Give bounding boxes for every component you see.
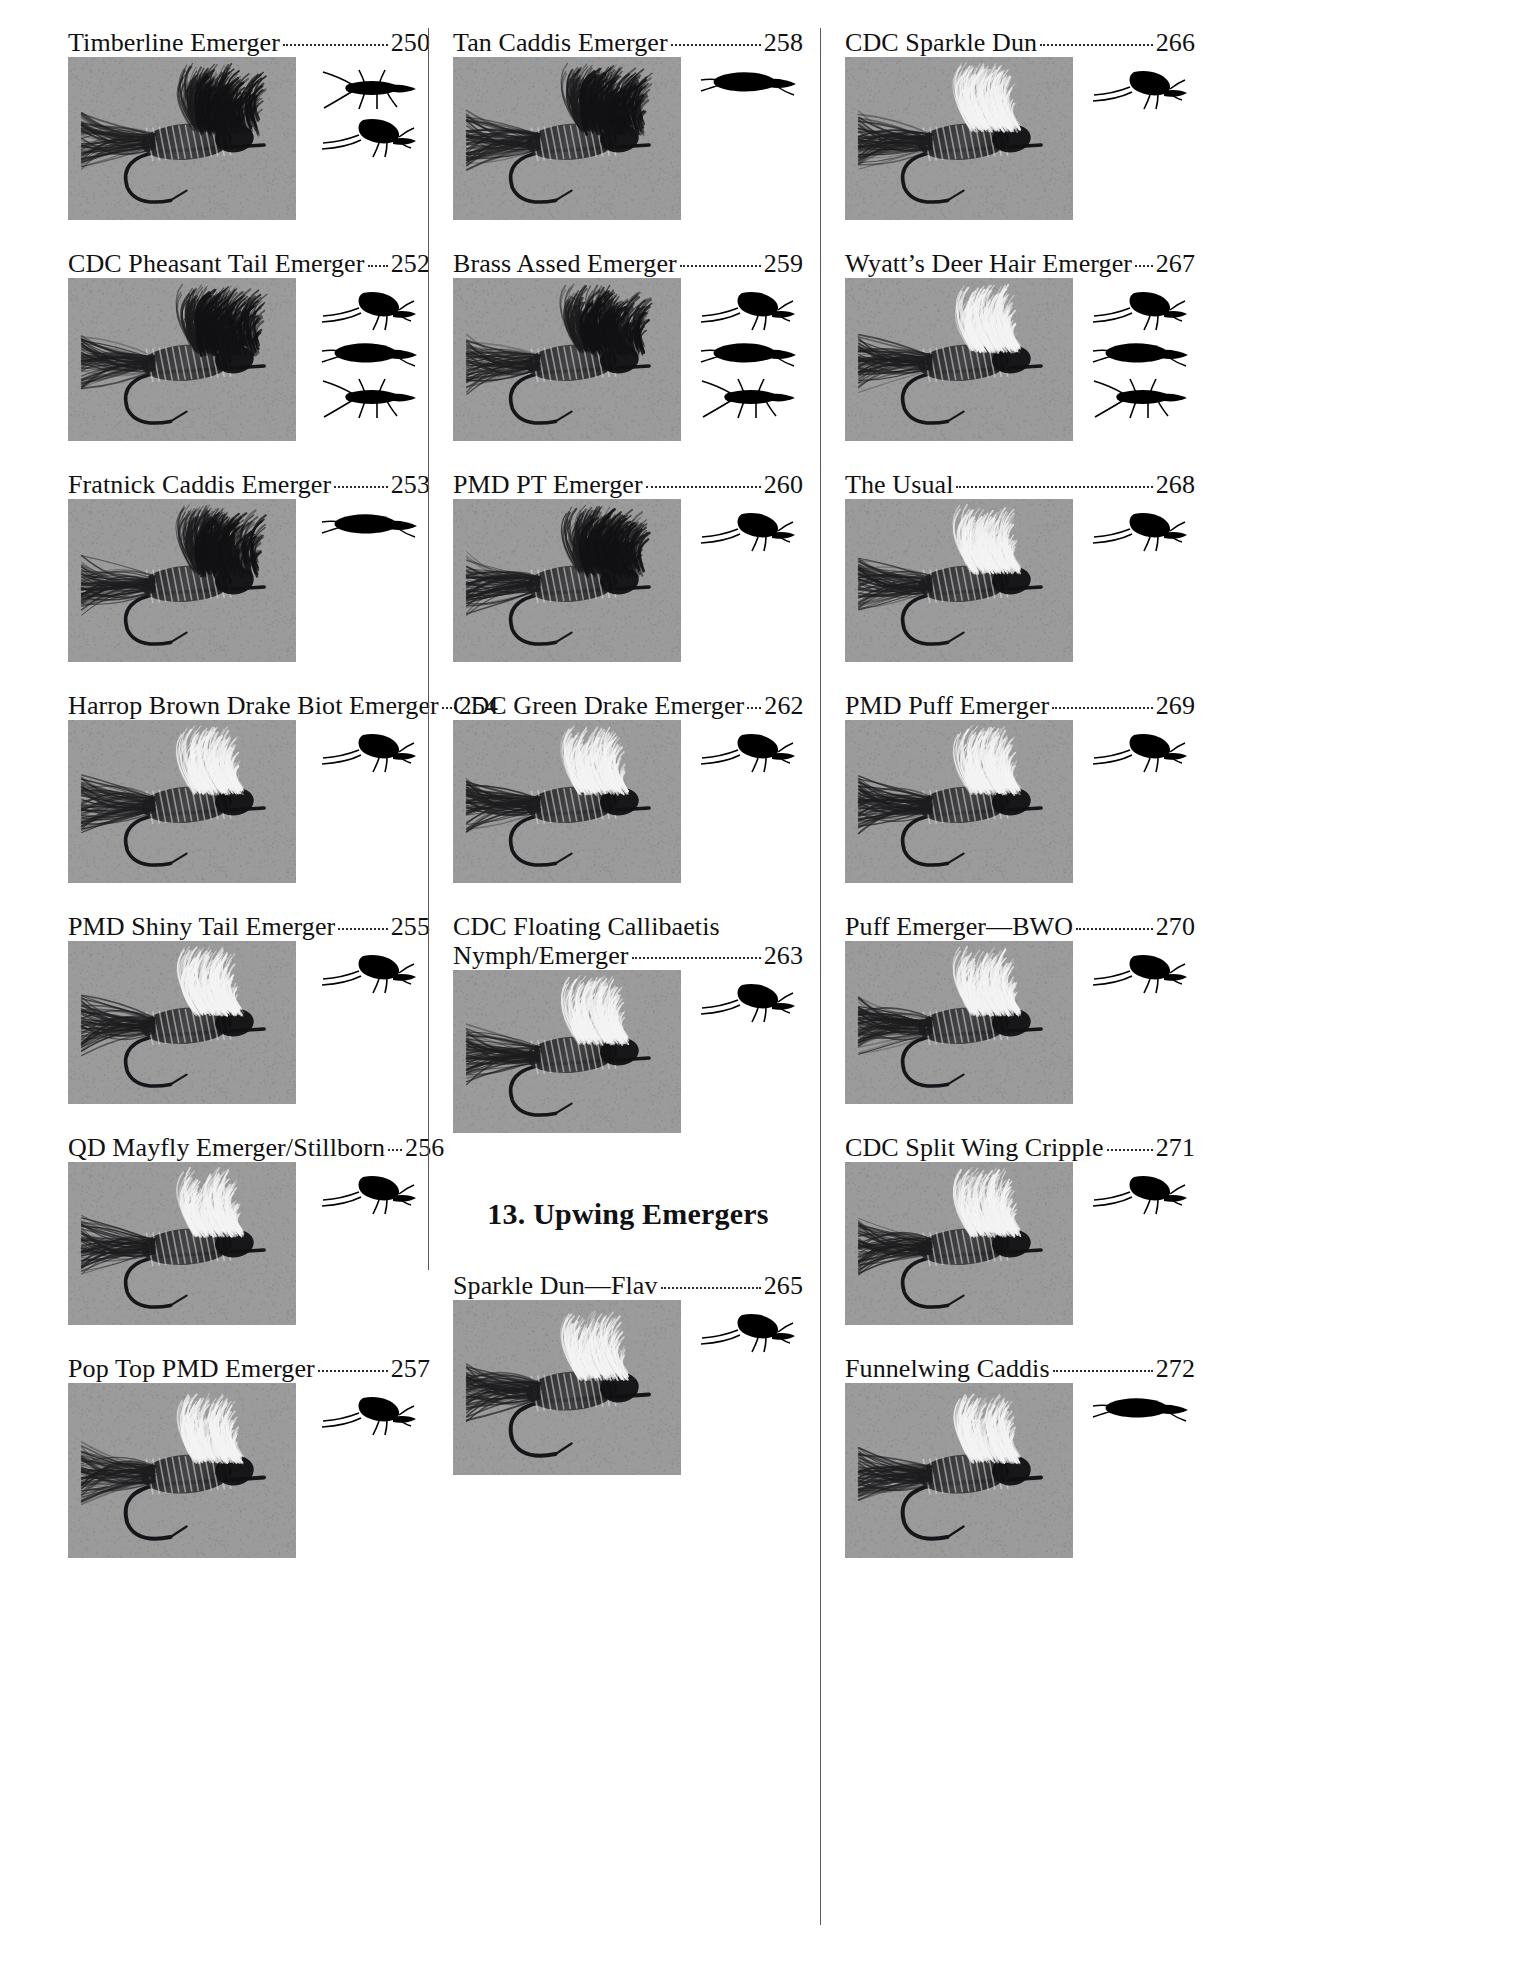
catalog-entry[interactable]: Pop Top PMD Emerger257: [68, 1354, 430, 1558]
dot-leader: [368, 265, 388, 267]
catalog-entry[interactable]: Wyatt’s Deer Hair Emerger267: [845, 249, 1195, 441]
page-number[interactable]: 266: [1156, 28, 1195, 57]
catalog-entry[interactable]: The Usual268: [845, 470, 1195, 662]
page-number[interactable]: 252: [391, 249, 430, 278]
page-number[interactable]: 256: [405, 1133, 444, 1162]
catalog-entry[interactable]: CDC Split Wing Cripple271: [845, 1133, 1195, 1325]
insect-silhouette-group: [1073, 1162, 1195, 1218]
entry-body: [453, 278, 803, 441]
mayfly-silhouette: [319, 951, 419, 997]
fly-photo[interactable]: [845, 57, 1073, 220]
page-number[interactable]: 272: [1156, 1354, 1195, 1383]
catalog-entry[interactable]: CDC Pheasant Tail Emerger252: [68, 249, 430, 441]
mayfly-silhouette: [698, 1310, 798, 1356]
entry-body: [453, 1300, 803, 1475]
catalog-page: Timberline Emerger250CDC Pheasant Tail E…: [0, 0, 1538, 1977]
page-number[interactable]: 263: [764, 941, 803, 970]
section-heading: 13. Upwing Emergers: [453, 1197, 803, 1231]
mayfly-silhouette: [698, 730, 798, 776]
mayfly-silhouette: [1090, 509, 1190, 555]
entry-body: [845, 57, 1195, 220]
entry-body: [68, 1383, 430, 1558]
fly-photo[interactable]: [845, 720, 1073, 883]
catalog-entry[interactable]: PMD Puff Emerger269: [845, 691, 1195, 883]
catalog-entry[interactable]: QD Mayfly Emerger/Stillborn256: [68, 1133, 430, 1325]
fly-photo[interactable]: [68, 1383, 296, 1558]
fly-photo[interactable]: [845, 1162, 1073, 1325]
page-number[interactable]: 269: [1156, 691, 1195, 720]
fly-photo[interactable]: [845, 1383, 1073, 1558]
page-number[interactable]: 270: [1156, 912, 1195, 941]
fly-photo[interactable]: [68, 499, 296, 662]
page-number[interactable]: 265: [764, 1271, 803, 1300]
entry-title: Funnelwing Caddis: [845, 1354, 1050, 1383]
fly-photo[interactable]: [845, 278, 1073, 441]
catalog-entry[interactable]: PMD Shiny Tail Emerger255: [68, 912, 430, 1104]
page-number[interactable]: 260: [764, 470, 803, 499]
fly-photo[interactable]: [845, 499, 1073, 662]
dot-leader: [338, 928, 387, 930]
entry-title: Harrop Brown Drake Biot Emerger: [68, 691, 439, 720]
page-number[interactable]: 262: [764, 691, 803, 720]
insect-silhouette-group: [296, 57, 430, 161]
catalog-entry[interactable]: Brass Assed Emerger259: [453, 249, 803, 441]
mayfly-silhouette: [319, 288, 419, 334]
entry-heading: Wyatt’s Deer Hair Emerger267: [845, 249, 1195, 278]
catalog-entry[interactable]: Fratnick Caddis Emerger253: [68, 470, 430, 662]
page-number[interactable]: 253: [391, 470, 430, 499]
stonefly-silhouette: [319, 67, 419, 111]
fly-photo[interactable]: [68, 720, 296, 883]
fly-photo[interactable]: [68, 57, 296, 220]
mayfly-silhouette: [1090, 730, 1190, 776]
fly-photo[interactable]: [453, 499, 681, 662]
catalog-entry[interactable]: Harrop Brown Drake Biot Emerger254: [68, 691, 430, 883]
fly-photo[interactable]: [453, 57, 681, 220]
fly-photo[interactable]: [68, 1162, 296, 1325]
catalog-entry[interactable]: Puff Emerger—BWO270: [845, 912, 1195, 1104]
page-number[interactable]: 271: [1156, 1133, 1195, 1162]
page-number[interactable]: 257: [391, 1354, 430, 1383]
entry-heading: The Usual268: [845, 470, 1195, 499]
fly-photo[interactable]: [68, 941, 296, 1104]
fly-photo[interactable]: [845, 941, 1073, 1104]
catalog-entry[interactable]: CDC Floating CallibaetisNymph/Emerger263: [453, 912, 803, 1133]
fly-photo[interactable]: [453, 278, 681, 441]
entry-heading: PMD Puff Emerger269: [845, 691, 1195, 720]
entry-title: Pop Top PMD Emerger: [68, 1354, 315, 1383]
page-number[interactable]: 258: [764, 28, 803, 57]
dot-leader: [318, 1370, 388, 1372]
entry-body: [68, 1162, 430, 1325]
fly-photo[interactable]: [68, 278, 296, 441]
page-number[interactable]: 267: [1156, 249, 1195, 278]
entry-body: [845, 1383, 1195, 1558]
catalog-entry[interactable]: CDC Green Drake Emerger262: [453, 691, 803, 883]
page-number[interactable]: 250: [391, 28, 430, 57]
entry-heading: QD Mayfly Emerger/Stillborn256: [68, 1133, 430, 1162]
catalog-entry[interactable]: Funnelwing Caddis272: [845, 1354, 1195, 1558]
page-number[interactable]: 255: [391, 912, 430, 941]
entry-title: Wyatt’s Deer Hair Emerger: [845, 249, 1132, 278]
fly-photo[interactable]: [453, 720, 681, 883]
insect-silhouette-group: [1073, 499, 1195, 555]
insect-silhouette-group: [1073, 278, 1195, 420]
entry-body: [453, 499, 803, 662]
entry-heading: Tan Caddis Emerger258: [453, 28, 803, 57]
entry-title: Sparkle Dun—Flav: [453, 1271, 658, 1300]
entry-body: [845, 278, 1195, 441]
catalog-entry[interactable]: CDC Sparkle Dun266: [845, 28, 1195, 220]
dot-leader: [956, 486, 1152, 488]
entry-body: [453, 970, 803, 1133]
catalog-entry[interactable]: Timberline Emerger250: [68, 28, 430, 220]
mayfly-silhouette: [1090, 67, 1190, 113]
page-number[interactable]: 259: [764, 249, 803, 278]
page-number[interactable]: 268: [1156, 470, 1195, 499]
insect-silhouette-group: [296, 720, 430, 776]
catalog-entry[interactable]: PMD PT Emerger260: [453, 470, 803, 662]
catalog-entry[interactable]: Tan Caddis Emerger258: [453, 28, 803, 220]
column-divider-1: [428, 28, 429, 1270]
entry-title: CDC Pheasant Tail Emerger: [68, 249, 365, 278]
fly-photo[interactable]: [453, 970, 681, 1133]
catalog-entry[interactable]: Sparkle Dun—Flav265: [453, 1271, 803, 1475]
entry-heading: CDC Split Wing Cripple271: [845, 1133, 1195, 1162]
fly-photo[interactable]: [453, 1300, 681, 1475]
